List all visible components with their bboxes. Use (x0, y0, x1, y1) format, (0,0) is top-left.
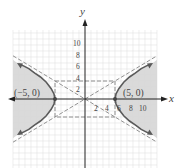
x-axis-arrow-right (161, 97, 168, 102)
vertex-left-point (53, 97, 57, 101)
hyperbola-graph: y x 10 8 6 4 2 2 4 6 8 10 (−5, 0) (5, 0) (0, 0, 175, 168)
vertex-right-point (113, 97, 117, 101)
vertex-left-label: (−5, 0) (14, 88, 40, 99)
y-tick-2: 2 (76, 85, 80, 94)
x-tick-10: 10 (139, 104, 147, 113)
x-tick-8: 8 (129, 104, 133, 113)
x-axis-label: x (168, 92, 174, 104)
x-tick-2: 2 (94, 104, 98, 113)
x-tick-6: 6 (117, 104, 121, 113)
y-tick-8: 8 (76, 51, 80, 60)
y-axis-label: y (79, 5, 85, 17)
y-tick-10: 10 (73, 39, 81, 48)
y-axis-arrow-up (83, 19, 88, 26)
x-tick-4: 4 (105, 104, 109, 113)
vertex-right-label: (5, 0) (123, 88, 144, 99)
y-tick-6: 6 (76, 62, 80, 71)
y-tick-4: 4 (76, 74, 80, 83)
